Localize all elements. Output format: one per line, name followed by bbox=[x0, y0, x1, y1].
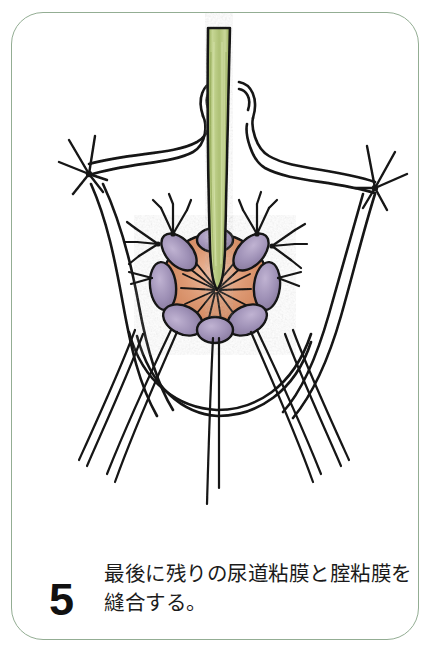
surgical-diagram-svg bbox=[11, 12, 419, 552]
suture-threads bbox=[79, 330, 349, 504]
step-number: 5 bbox=[18, 556, 104, 630]
flap-bottom bbox=[197, 317, 233, 343]
caption-text: 最後に残りの尿道粘膜と腟粘膜を縫合する。 bbox=[104, 556, 414, 618]
labial-outline-right bbox=[283, 194, 375, 418]
labial-outline bbox=[89, 82, 375, 193]
illustration-figure bbox=[11, 12, 419, 552]
page-root: 5 最後に残りの尿道粘膜と腟粘膜を縫合する。 bbox=[0, 0, 439, 654]
caption-block: 5 最後に残りの尿道粘膜と腟粘膜を縫合する。 bbox=[18, 556, 414, 634]
suture-knot-left bbox=[59, 136, 107, 194]
